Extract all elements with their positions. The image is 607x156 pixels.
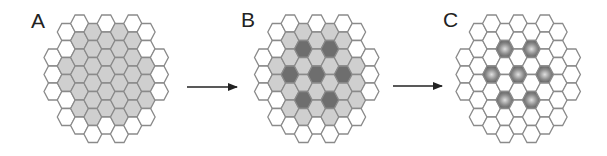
hex-cell	[361, 49, 379, 66]
hex-cell	[549, 109, 567, 126]
hex-cell	[562, 83, 580, 100]
hex-grid-a	[44, 15, 168, 143]
hex-grid-b	[255, 15, 379, 143]
hex-cell	[348, 109, 366, 126]
panel-label-a: A	[31, 9, 45, 32]
hex-cell	[361, 66, 379, 83]
hexagonal-grid-figure: A B C	[0, 0, 607, 156]
hex-cell	[137, 24, 155, 41]
hex-cell	[361, 83, 379, 100]
hex-cell	[150, 83, 168, 100]
hex-cell	[348, 24, 366, 41]
hex-cell	[137, 109, 155, 126]
hex-grid-c	[456, 15, 580, 143]
panel-label-b: B	[241, 8, 255, 31]
hex-cell	[549, 24, 567, 41]
hex-cell	[562, 49, 580, 66]
panel-a: A	[31, 9, 168, 143]
hex-cell	[150, 49, 168, 66]
hex-cell	[150, 66, 168, 83]
panel-b: B	[241, 8, 379, 143]
hex-cell	[562, 66, 580, 83]
panel-c: C	[443, 8, 580, 143]
panel-label-c: C	[443, 8, 458, 31]
